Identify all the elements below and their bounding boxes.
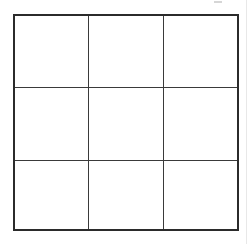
grid-cell-r3-c3 <box>164 161 237 229</box>
grid-cell-r1-c1 <box>15 16 88 87</box>
grid-cell-r3-c2 <box>89 161 163 229</box>
three-by-three-grid <box>13 14 239 231</box>
grid-cell-r2-c1 <box>15 88 88 160</box>
grid-cell-r1-c3 <box>164 16 237 87</box>
faint-mark <box>214 1 222 3</box>
grid-cell-r1-c2 <box>89 16 163 87</box>
grid-cell-r2-c3 <box>164 88 237 160</box>
page-edge-line <box>246 0 247 244</box>
grid-cell-r3-c1 <box>15 161 88 229</box>
grid-cell-r2-c2 <box>89 88 163 160</box>
